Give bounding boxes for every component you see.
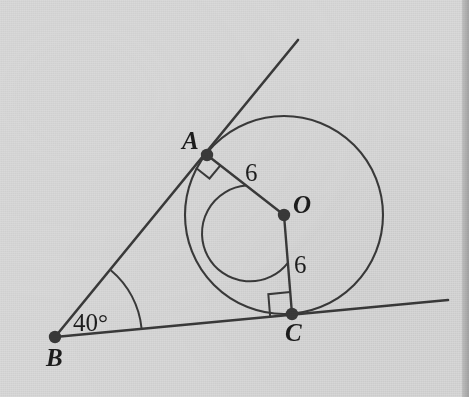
angle-label-B: 40° xyxy=(73,310,108,335)
point-O-dot xyxy=(278,209,290,221)
point-A-dot xyxy=(201,149,213,161)
point-label-C: C xyxy=(285,320,302,345)
angle-arc-at-B xyxy=(111,270,142,328)
right-angle-mark-at-A xyxy=(196,165,220,178)
length-label-OA: 6 xyxy=(245,160,258,185)
ray-BC-tangent-line xyxy=(55,300,448,337)
length-label-OC: 6 xyxy=(294,252,307,277)
geometry-canvas xyxy=(0,0,469,397)
angle-arc-at-O xyxy=(202,186,288,282)
ray-BA-tangent-line xyxy=(55,40,298,337)
point-B-dot xyxy=(49,331,61,343)
geometry-figure: A B C O 6 6 40° xyxy=(0,0,469,397)
point-label-O: O xyxy=(293,192,311,217)
point-label-A: A xyxy=(182,128,199,153)
point-label-B: B xyxy=(46,345,63,370)
